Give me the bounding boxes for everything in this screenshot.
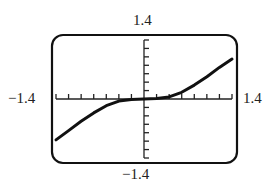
- x-min-label: −1.4: [8, 91, 35, 106]
- y-max-label: 1.4: [133, 13, 152, 28]
- graphing-calculator-screen: [0, 0, 277, 193]
- x-max-label: 1.4: [243, 91, 262, 106]
- y-min-label: −1.4: [122, 167, 149, 182]
